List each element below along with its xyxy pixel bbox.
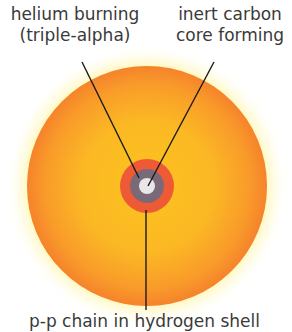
- carbon-core: [139, 178, 155, 194]
- carbon-label-line1: inert carbon: [168, 4, 292, 25]
- carbon-label-line2: core forming: [168, 25, 292, 46]
- helium-burning-label: helium burning (triple-alpha): [0, 4, 150, 46]
- carbon-core-label: inert carbon core forming: [168, 4, 292, 46]
- helium-label-line2: (triple-alpha): [0, 25, 150, 46]
- helium-label-line1: helium burning: [0, 4, 150, 25]
- hydrogen-shell-label: p-p chain in hydrogen shell: [0, 311, 289, 332]
